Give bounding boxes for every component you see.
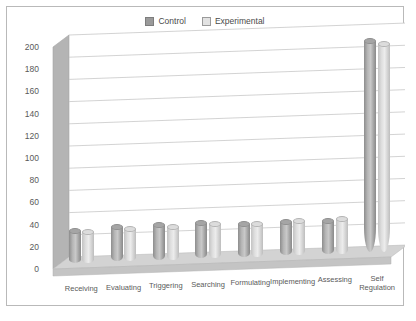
bar-experimental-0	[82, 232, 94, 263]
bar-top-cap	[82, 229, 94, 235]
plot-area	[7, 7, 405, 307]
bar-top-cap	[238, 221, 250, 227]
bar-control-2	[153, 225, 165, 259]
bar-control-1	[111, 227, 123, 261]
bar-body	[322, 221, 334, 254]
bar-experimental-6	[336, 219, 348, 253]
bar-top-cap	[195, 220, 207, 226]
bar-control-5	[280, 222, 292, 255]
bar-body	[124, 229, 136, 261]
bar-body	[336, 219, 348, 253]
bar-top-cap	[280, 219, 292, 225]
bar-control-7	[364, 41, 376, 252]
bar-top-cap	[251, 221, 263, 227]
bar-body	[280, 222, 292, 255]
bar-body	[153, 225, 165, 259]
bar-top-cap	[69, 228, 81, 234]
bar-experimental-4	[251, 224, 263, 257]
bar-top-cap	[209, 221, 221, 227]
bar-body	[167, 227, 179, 260]
bar-body	[209, 224, 221, 258]
bar-top-cap	[167, 224, 179, 230]
bar-body	[251, 224, 263, 257]
bar-body	[82, 232, 94, 263]
bar-control-6	[322, 221, 334, 254]
bar-experimental-7	[378, 44, 390, 253]
bar-control-3	[195, 223, 207, 259]
bar-experimental-1	[124, 229, 136, 261]
bar-body	[378, 44, 390, 253]
bar-body	[111, 227, 123, 261]
bar-experimental-2	[167, 227, 179, 260]
x-axis-labels: ReceivingEvaluatingTriggeringSearchingFo…	[45, 279, 397, 307]
bar-body	[238, 224, 250, 257]
bar-body	[293, 221, 305, 255]
bar-top-cap	[111, 224, 123, 230]
bar-top-cap	[378, 41, 390, 47]
bar-control-4	[238, 224, 250, 257]
bar-experimental-5	[293, 221, 305, 255]
bar-top-cap	[322, 218, 334, 224]
bar-body	[195, 223, 207, 259]
bar-body	[364, 41, 376, 252]
bar-control-0	[69, 231, 81, 263]
x-axis-label-7: Self Regulation	[349, 274, 405, 292]
chart-frame: Control Experimental 2001801601401201008…	[6, 6, 404, 306]
bar-experimental-3	[209, 224, 221, 258]
bar-body	[69, 231, 81, 263]
